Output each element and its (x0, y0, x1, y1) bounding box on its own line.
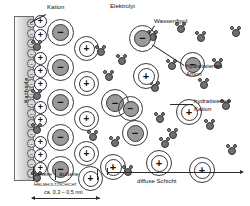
water-dipole-oxygen (200, 81, 208, 89)
water-dipole-oxygen (156, 115, 164, 123)
adsorbed-water-dipole (32, 90, 43, 101)
diffuse-layer-line (107, 172, 242, 173)
anion-core: − (127, 125, 144, 142)
water-dipole-oxygen (228, 147, 236, 155)
water-dipole-oxygen (33, 92, 41, 100)
label-elektrolyt: Elektrolyt (110, 2, 135, 10)
hydrated-cation: + (74, 106, 99, 131)
anion-core: − (52, 59, 69, 76)
water-dipole (205, 120, 216, 131)
hydrated-anion: − (47, 54, 74, 81)
water-dipole-oxygen (206, 122, 214, 130)
helmholtz-divider-outer (97, 169, 98, 180)
water-dipole (104, 71, 115, 82)
water-dipole-oxygen (33, 43, 41, 51)
adsorbed-water-dipole (32, 124, 43, 135)
water-dipole (88, 131, 99, 142)
cation-core: + (79, 146, 95, 162)
cation-core: + (79, 76, 95, 92)
water-dipole-oxygen (111, 139, 119, 147)
hydrated-cation: + (74, 36, 99, 61)
cation-core: + (151, 155, 168, 172)
hydrated-cation: + (78, 166, 103, 191)
water-dipole (117, 55, 128, 66)
diagram-canvas: Kathode −−−−−−−−−−−−−−−−++++++++++−−−−−+… (0, 0, 250, 206)
adsorbed-cation: + (34, 136, 47, 149)
adsorbed-water-dipole (32, 41, 43, 52)
water-dipole (155, 113, 166, 124)
water-dipole (227, 145, 238, 156)
dimension-arrow-right (96, 196, 100, 200)
hydrated-cation: + (74, 71, 99, 96)
adsorbed-cation: + (34, 149, 47, 162)
water-dipole (199, 79, 210, 90)
label-hydratisiertes-kation: hydratisiertes Kation (194, 97, 230, 112)
water-dipole-oxygen (177, 25, 185, 33)
anion-core: − (123, 101, 139, 117)
anion-core: − (52, 129, 69, 146)
cation-core: + (79, 111, 95, 127)
water-dipole (168, 129, 179, 140)
water-dipole-oxygen (89, 133, 97, 141)
adsorbed-cation: + (34, 65, 47, 78)
hydrated-anion: − (122, 120, 148, 146)
anion-core: − (52, 24, 69, 41)
anion-core: − (52, 94, 69, 111)
water-dipole-oxygen (33, 126, 41, 134)
label-kation: Kation (47, 3, 64, 11)
water-dipole-oxygen (197, 34, 205, 42)
cation-core: + (194, 162, 211, 179)
dimension-arrow-left (31, 196, 35, 200)
label-wasserdipol: Wasserdipol (154, 17, 187, 25)
water-dipole (231, 27, 242, 38)
dimension-line (32, 198, 100, 199)
adsorbed-cation: + (34, 101, 47, 114)
label-diffuse-schicht: diffuse Schicht (137, 177, 177, 185)
water-dipole-oxygen (168, 62, 176, 70)
helmholtz-divider-middle (55, 169, 56, 180)
water-dipole (176, 23, 187, 34)
water-dipole-oxygen (118, 57, 126, 65)
water-dipole-oxygen (105, 73, 113, 81)
label-innere: innere (35, 170, 52, 178)
diffuse-layer-arrow (240, 170, 244, 174)
water-dipole (196, 32, 207, 43)
water-dipole-oxygen (169, 131, 177, 139)
hydrated-cation: + (100, 154, 126, 180)
hydrated-cation: + (133, 63, 159, 89)
cation-core: + (138, 68, 155, 85)
water-dipole-oxygen (232, 29, 240, 37)
hydrated-anion: − (118, 96, 143, 121)
water-dipole (110, 137, 121, 148)
label-dimension: ca. 0,3 – 0,5 nm (44, 189, 83, 197)
water-dipole-oxygen (161, 140, 169, 148)
hydrated-anion: − (47, 19, 74, 46)
cation-core: + (79, 41, 95, 57)
hydrated-cation: + (74, 141, 99, 166)
leader-line-kation-hydrated (170, 104, 193, 105)
label-aeussere: äußere (59, 170, 78, 178)
label-helmholtzschicht: Helmholtzschicht (34, 181, 77, 189)
adsorbed-cation: + (34, 52, 47, 65)
hydrated-cation: + (189, 157, 215, 183)
hydrated-anion: − (47, 89, 74, 116)
helmholtz-divider-inner (33, 167, 34, 181)
hydrated-anion: − (47, 124, 74, 151)
label-hydratisiertes-anion: hydratisiertes Anion (186, 62, 222, 77)
